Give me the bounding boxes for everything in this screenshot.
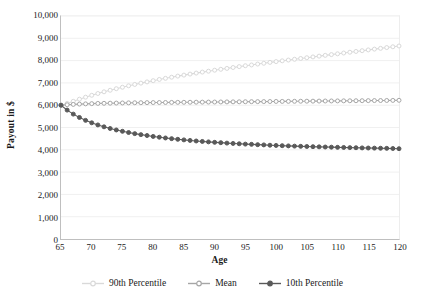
series-marker [262,61,266,65]
series-marker [256,62,260,66]
series-marker [397,98,401,102]
series-marker [268,143,272,147]
series-marker [385,46,389,50]
series-marker [329,99,333,103]
series-marker [379,99,383,103]
series-marker [213,68,217,72]
series-marker [133,132,137,136]
series-marker [182,138,186,142]
series-marker [372,99,376,103]
series-marker [311,55,315,59]
legend-item[interactable]: 10th Percentile [259,278,343,288]
series-marker [151,134,155,138]
series-marker [65,103,69,107]
series-marker [256,143,260,147]
series-marker [274,99,278,103]
series-marker [151,79,155,83]
x-tick-label: 85 [169,242,199,252]
series-marker [262,100,266,104]
legend-label: Mean [215,278,237,288]
series-marker [342,145,346,149]
y-tick-label: 5,000 [12,123,58,132]
series-marker [237,142,241,146]
series-marker [84,102,88,106]
series-marker [366,146,370,150]
series-marker [157,77,161,81]
x-tick-label: 65 [45,242,75,252]
legend-item[interactable]: 90th Percentile [82,278,166,288]
series-marker [206,100,210,104]
series-marker [286,58,290,62]
series-marker [268,100,272,104]
series-line [61,46,399,105]
series-marker [372,47,376,51]
series-marker [163,100,167,104]
legend-marker-icon [259,279,281,288]
series-marker [342,99,346,103]
y-tick-label: 6,000 [12,101,58,110]
series-marker [243,142,247,146]
series-marker [250,100,254,104]
series-marker [262,143,266,147]
series-marker [360,146,364,150]
series-marker [188,100,192,104]
series-marker [366,48,370,52]
series-marker [176,100,180,104]
series-marker [280,99,284,103]
series-marker [280,144,284,148]
series-marker [391,147,395,151]
y-tick-label: 4,000 [12,146,58,155]
series-marker [379,146,383,150]
series-marker [139,101,143,105]
series-marker [170,137,174,141]
series-marker [231,66,235,70]
x-tick-label: 95 [230,242,260,252]
series-marker [65,108,69,112]
series-marker [360,49,364,53]
series-marker [188,138,192,142]
series-marker [225,66,229,70]
chart-legend: 90th PercentileMean10th Percentile [0,278,425,288]
legend-label: 10th Percentile [286,278,343,288]
series-marker [84,118,88,122]
plot-area [60,15,400,240]
series-marker [182,73,186,77]
series-marker [133,82,137,86]
series-marker [120,85,124,89]
series-marker [305,145,309,149]
series-marker [96,101,100,105]
series-marker [114,128,118,132]
series-marker [397,44,401,48]
series-marker [176,137,180,141]
series-marker [268,60,272,64]
series-marker [139,133,143,137]
series-marker [90,93,94,97]
series-marker [280,59,284,63]
series-marker [225,141,229,145]
x-tick-label: 115 [354,242,384,252]
series-marker [71,112,75,116]
series-marker [108,101,112,105]
series-marker [231,141,235,145]
series-3 [59,103,401,150]
series-marker [317,145,321,149]
series-marker [366,99,370,103]
series-marker [194,100,198,104]
x-tick-label: 100 [261,242,291,252]
series-marker [96,92,100,96]
x-tick-label: 75 [107,242,137,252]
series-marker [286,99,290,103]
series-marker [139,81,143,85]
series-marker [293,144,297,148]
x-axis-tick-labels: 65707580859095100105110115120 [0,242,425,256]
series-2 [59,98,401,107]
y-tick-label: 2,000 [12,191,58,200]
legend-item[interactable]: Mean [188,278,237,288]
series-marker [213,140,217,144]
y-tick-label: 1,000 [12,213,58,222]
series-marker [286,144,290,148]
payout-line-chart: Payout in $ 01,0002,0003,0004,0005,0006,… [0,0,425,304]
series-marker [200,70,204,74]
series-marker [397,147,401,151]
series-marker [127,131,131,135]
